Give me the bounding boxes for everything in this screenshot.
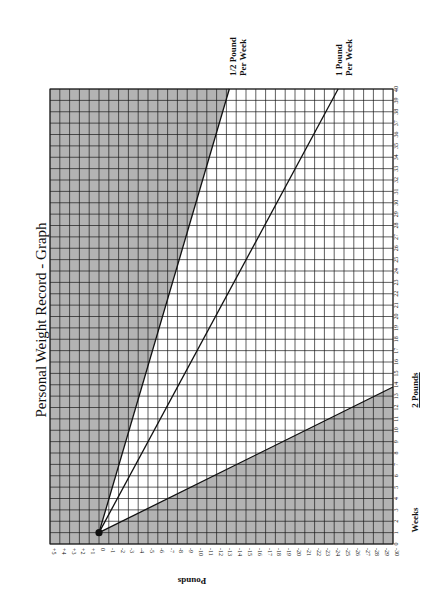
- pounds-tick-label: -8: [178, 548, 184, 553]
- pounds-tick-label: -17: [267, 548, 273, 556]
- weeks-tick-label: 10: [393, 427, 399, 433]
- pounds-tick-label: +2: [80, 548, 86, 554]
- weeks-tick-label: 33: [393, 166, 399, 172]
- start-point-dot: [95, 529, 102, 536]
- weeks-tick-label: 2: [393, 520, 399, 523]
- weeks-tick-label: 20: [393, 314, 399, 320]
- pounds-tick-label: -18: [276, 548, 282, 556]
- weeks-tick-label: 7: [393, 463, 399, 466]
- pounds-tick-label: -15: [247, 548, 253, 556]
- weeks-tick-label: 30: [393, 200, 399, 206]
- weeks-tick-label: 0: [393, 543, 399, 546]
- pounds-tick-label: -30: [394, 548, 400, 556]
- weeks-tick-label: 39: [393, 97, 399, 103]
- weeks-tick-label: 40: [393, 86, 399, 92]
- weeks-tick-label: 15: [393, 370, 399, 376]
- weeks-tick-label: 31: [393, 188, 399, 194]
- weeks-tick-label: 17: [393, 348, 399, 354]
- weeks-tick-label: 23: [393, 279, 399, 285]
- weeks-tick-label: 14: [393, 382, 399, 388]
- pounds-tick-label: -24: [335, 548, 341, 556]
- pounds-tick-label: -5: [149, 548, 155, 553]
- weeks-tick-label: 21: [393, 302, 399, 308]
- weeks-tick-label: 38: [393, 109, 399, 115]
- weeks-tick-label: 4: [393, 497, 399, 500]
- weeks-tick-label: 25: [393, 257, 399, 263]
- weeks-tick-label: 37: [393, 120, 399, 126]
- pounds-tick-label: +5: [51, 548, 57, 554]
- weeks-tick-label: 32: [393, 177, 399, 183]
- pounds-tick-label: -2: [120, 548, 126, 553]
- pounds-tick-label: -11: [208, 548, 214, 556]
- pounds-tick-label: -16: [257, 548, 263, 556]
- weeks-tick-label: 26: [393, 245, 399, 251]
- pounds-tick-label: 0: [100, 548, 106, 551]
- pounds-tick-label: -9: [188, 548, 194, 553]
- pounds-tick-label: +1: [90, 548, 96, 554]
- pounds-tick-label: -23: [325, 548, 331, 556]
- half-pound-label-line2: Per Week: [238, 39, 248, 76]
- pounds-axis-label: Pounds: [177, 576, 206, 586]
- pounds-tick-label: -3: [129, 548, 135, 553]
- one-pound-label-line2: Per Week: [344, 39, 354, 76]
- weeks-tick-label: 34: [393, 154, 399, 160]
- weeks-tick-label: 35: [393, 143, 399, 149]
- weeks-tick-label: 29: [393, 211, 399, 217]
- pounds-tick-label: +3: [71, 548, 77, 554]
- pounds-tick-label: +4: [61, 548, 67, 554]
- weeks-tick-label: 19: [393, 325, 399, 331]
- weeks-tick-label: 16: [393, 359, 399, 365]
- weight-record-chart: +5+4+3+2+10-1-2-3-4-5-6-7-8-9-10-11-12-1…: [0, 0, 425, 609]
- pounds-tick-label: -26: [355, 548, 361, 556]
- pounds-tick-label: -22: [316, 548, 322, 556]
- chart-title: Personal Weight Record - Graph: [33, 222, 49, 418]
- grid: [50, 89, 393, 544]
- weeks-tick-label: 24: [393, 268, 399, 274]
- pounds-tick-label: -27: [365, 548, 371, 556]
- weeks-tick-label: 1: [393, 531, 399, 534]
- pounds-tick-label: -7: [169, 548, 175, 553]
- weeks-tick-label: 3: [393, 508, 399, 511]
- pounds-tick-label: -4: [139, 548, 145, 553]
- pounds-tick-label: -28: [374, 548, 380, 556]
- one-pound-label-line1: 1 Pound: [334, 44, 344, 76]
- pounds-tick-label: -10: [198, 548, 204, 556]
- weeks-tick-label: 12: [393, 405, 399, 411]
- weeks-tick-label: 11: [393, 416, 399, 422]
- pounds-tick-label: -13: [227, 548, 233, 556]
- pounds-tick-label: -29: [384, 548, 390, 556]
- pounds-tick-label: -21: [306, 548, 312, 556]
- half-pound-label-line1: 1/2 Pound: [228, 37, 238, 76]
- weeks-tick-label: 9: [393, 440, 399, 443]
- weeks-tick-label: 28: [393, 223, 399, 229]
- weeks-tick-label: 6: [393, 474, 399, 477]
- weeks-tick-label: 27: [393, 234, 399, 240]
- pounds-tick-label: -20: [296, 548, 302, 556]
- weeks-axis-label: Weeks: [410, 507, 420, 532]
- pounds-tick-label: -6: [159, 548, 165, 553]
- weeks-tick-label: 5: [393, 486, 399, 489]
- two-pounds-label: 2 Pounds: [410, 372, 420, 408]
- weeks-tick-label: 18: [393, 336, 399, 342]
- pounds-tick-label: -19: [286, 548, 292, 556]
- weeks-tick-label: 8: [393, 452, 399, 455]
- pounds-tick-label: -12: [218, 548, 224, 556]
- pounds-tick-label: -14: [237, 548, 243, 556]
- weeks-tick-label: 36: [393, 132, 399, 138]
- pounds-tick-label: -25: [345, 548, 351, 556]
- weeks-tick-label: 13: [393, 393, 399, 399]
- pounds-tick-label: -1: [110, 548, 116, 553]
- weeks-tick-label: 22: [393, 291, 399, 297]
